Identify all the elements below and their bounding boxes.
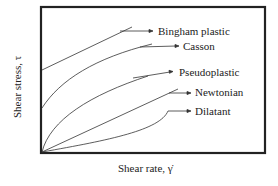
rheology-diagram: Bingham plastic Casson Pseudoplastic New… (0, 0, 278, 186)
label-casson: Casson (183, 40, 215, 52)
label-pseudoplastic: Pseudoplastic (179, 66, 240, 78)
curve-pseudoplastic (42, 76, 148, 152)
label-bingham: Bingham plastic (158, 25, 230, 37)
plot-frame (41, 7, 265, 153)
y-axis-label: Shear stress, τ (11, 55, 23, 118)
label-dilatant: Dilatant (195, 105, 230, 117)
x-axis-label: Shear rate, γ̇ (118, 162, 174, 174)
curve-bingham (42, 27, 132, 70)
label-newtonian: Newtonian (195, 86, 244, 98)
curve-dilatant (42, 111, 168, 152)
curve-casson (42, 44, 152, 108)
